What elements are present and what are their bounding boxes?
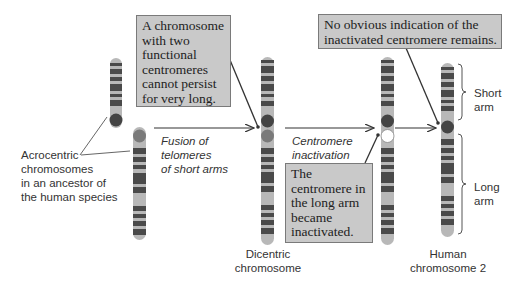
centromere-inactive [381,130,394,143]
short-arm-brace [458,64,466,120]
centromere-active [381,115,394,128]
inactivation-step-label: Centromere inactivation [292,134,353,162]
note-no-indication: No obvious indication of the inactivated… [318,14,502,49]
centromere [441,121,454,134]
human-chromosome-2 [441,63,454,237]
centromere-active [261,115,274,128]
acrocentric-chromosome-upper [110,58,123,128]
note-no-indication-pointer [406,48,438,123]
note-dicentric-pointer [230,60,258,127]
short-arm-label: Short arm [474,86,502,114]
chromosome-fusion-diagram: A chromosome with two functional centrom… [0,0,522,281]
dicentric-label: Dicentric chromosome [234,247,302,275]
acrocentric-chromosome-lower [133,127,146,240]
inactivated-chromosome [381,57,394,245]
acrocentric-label: Acrocentric chromosomes in an ancestor o… [21,148,118,204]
long-arm-label: Long arm [474,180,500,208]
long-arm-brace [458,134,466,234]
human-chr2-label: Human chromosome 2 [406,247,490,275]
centromere-lower [133,130,146,143]
note-inactivated: The centromere in the long arm became in… [285,163,373,243]
centromere-second [261,130,274,143]
dicentric-chromosome [261,57,274,245]
note-dicentric: A chromosome with two functional centrom… [136,15,231,107]
fusion-step-label: Fusion of telomeres of short arms [161,134,228,176]
note-inactivated-pointer [365,135,378,163]
centromere-upper [110,114,123,127]
